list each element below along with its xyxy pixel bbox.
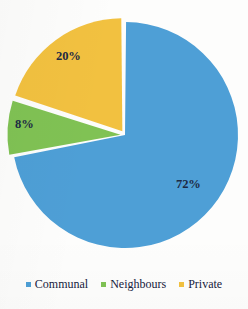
square-marker-icon	[101, 282, 106, 287]
legend-item-label: Private	[188, 278, 222, 290]
slice-label-private: 20%	[56, 50, 81, 63]
legend-item-private[interactable]: Private	[179, 278, 222, 290]
slice-label-neighbours: 8%	[15, 118, 34, 131]
legend-item-neighbours[interactable]: Neighbours	[101, 278, 166, 290]
square-marker-icon	[179, 282, 184, 287]
legend-item-label: Communal	[35, 278, 88, 290]
pie-chart: 72% 20% 8% Communal Neighbours Private	[0, 0, 248, 309]
slice-label-communal: 72%	[176, 178, 201, 191]
legend-item-communal[interactable]: Communal	[26, 278, 88, 290]
pie-plot-area: 72% 20% 8%	[0, 0, 248, 262]
legend-item-label: Neighbours	[110, 278, 166, 290]
pie-svg	[0, 0, 248, 262]
chart-legend: Communal Neighbours Private	[0, 272, 248, 296]
square-marker-icon	[26, 282, 31, 287]
